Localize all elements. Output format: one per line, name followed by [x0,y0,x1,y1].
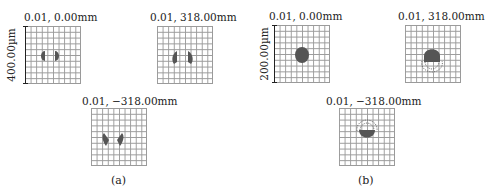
spot-a-tr-right [188,51,193,64]
spot-a-tl-left [41,51,45,61]
spot-a-tr-left [172,51,177,64]
spot-a-b-right [117,133,123,146]
spot-a-tl-right [55,51,59,61]
spot-b-tl [295,47,309,63]
spot-b-tr [424,49,440,62]
spot-b-b [359,130,375,138]
spot-a-b-left [103,133,109,146]
